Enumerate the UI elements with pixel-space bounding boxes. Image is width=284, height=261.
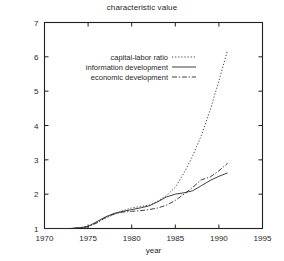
chart-plot-area: 1234567197019751980198519901995year capi…: [0, 0, 284, 261]
x-tick-label: 1995: [254, 234, 272, 243]
x-tick-label: 1975: [79, 234, 97, 243]
legend-label-2: information development: [86, 63, 169, 72]
series-line-2: [45, 173, 228, 229]
y-tick-label: 5: [34, 87, 39, 96]
y-tick-label: 4: [34, 122, 39, 131]
y-tick-label: 7: [34, 19, 39, 28]
x-axis-title: year: [146, 246, 162, 255]
y-tick-label: 6: [34, 53, 39, 62]
y-tick-label: 1: [34, 225, 39, 234]
series-line-3: [45, 163, 228, 228]
x-tick-label: 1980: [123, 234, 141, 243]
x-tick-label: 1985: [166, 234, 184, 243]
chart-legend: capital-labor ratioinformation developme…: [86, 53, 196, 82]
x-tick-label: 1990: [210, 234, 228, 243]
x-tick-label: 1970: [36, 234, 54, 243]
y-tick-label: 3: [34, 156, 39, 165]
legend-label-1: capital-labor ratio: [110, 53, 168, 62]
legend-label-3: economic development: [91, 73, 169, 82]
y-tick-label: 2: [34, 190, 39, 199]
chart-figure: characteristic value 1234567197019751980…: [0, 0, 284, 261]
